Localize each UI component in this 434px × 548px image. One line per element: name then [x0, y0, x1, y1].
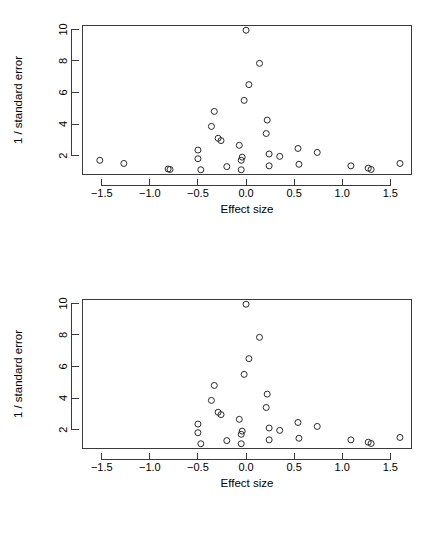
y-tick-label: 8	[57, 58, 69, 64]
y-tick-label: 10	[57, 297, 69, 309]
data-point	[241, 97, 247, 103]
y-axis-title: 1 / standard error	[12, 330, 24, 418]
data-point	[243, 27, 249, 33]
data-point	[97, 157, 103, 163]
funnel-plot-svg-bottom: 246810 −1.5−1.0−0.50.00.51.01.5 Effect s…	[0, 274, 434, 548]
x-tick-label: 1.0	[335, 461, 350, 473]
data-point	[263, 131, 269, 137]
data-point	[348, 163, 354, 169]
data-point	[264, 117, 270, 123]
x-tick-label: −1.5	[91, 461, 113, 473]
data-point	[241, 371, 247, 377]
data-point	[195, 156, 201, 162]
data-point	[195, 421, 201, 427]
x-tick-label: −1.5	[91, 187, 113, 199]
x-axis-title: Effect size	[221, 203, 274, 215]
data-point	[195, 147, 201, 153]
x-tick-label: −0.5	[187, 461, 209, 473]
data-point	[314, 149, 320, 155]
x-tick-label: 0.0	[238, 461, 253, 473]
data-point	[211, 382, 217, 388]
data-point	[208, 397, 214, 403]
y-tick-label: 2	[57, 153, 69, 159]
funnel-plot-panel-bottom: 246810 −1.5−1.0−0.50.00.51.01.5 Effect s…	[0, 274, 434, 548]
funnel-plot-svg-top: 246810 −1.5−1.0−0.50.00.51.01.5 Effect s…	[0, 0, 434, 274]
data-point	[246, 82, 252, 88]
x-axis: −1.5−1.0−0.50.00.51.01.5	[91, 453, 398, 474]
data-point	[264, 391, 270, 397]
x-axis-title: Effect size	[221, 477, 274, 489]
data-point	[266, 151, 272, 157]
y-tick-label: 2	[57, 427, 69, 433]
data-point	[198, 167, 204, 173]
data-point	[211, 108, 217, 114]
y-tick-label: 8	[57, 332, 69, 338]
y-axis: 246810	[57, 23, 79, 158]
x-tick-label: 0.5	[286, 461, 301, 473]
data-point	[295, 419, 301, 425]
x-tick-label: −0.5	[187, 187, 209, 199]
data-point	[236, 142, 242, 148]
y-tick-label: 6	[57, 363, 69, 369]
x-tick-label: 0.0	[238, 187, 253, 199]
data-point	[243, 301, 249, 307]
x-tick-label: 0.5	[286, 187, 301, 199]
y-tick-label: 4	[57, 121, 69, 127]
y-axis: 246810	[57, 297, 79, 432]
data-point	[224, 438, 230, 444]
data-point	[257, 334, 263, 340]
data-point	[296, 161, 302, 167]
x-tick-label: −1.0	[139, 461, 161, 473]
y-tick-label: 4	[57, 395, 69, 401]
data-point	[121, 160, 127, 166]
data-point	[238, 167, 244, 173]
x-tick-label: 1.5	[383, 187, 398, 199]
data-point	[246, 356, 252, 362]
data-point	[208, 123, 214, 129]
data-point	[266, 163, 272, 169]
data-point	[238, 441, 244, 447]
figure-page: 246810 −1.5−1.0−0.50.00.51.01.5 Effect s…	[0, 0, 434, 548]
data-point	[314, 423, 320, 429]
data-point	[263, 405, 269, 411]
x-tick-label: −1.0	[139, 187, 161, 199]
y-axis-title: 1 / standard error	[12, 56, 24, 144]
data-point	[236, 416, 242, 422]
x-tick-label: 1.5	[383, 461, 398, 473]
data-points	[97, 27, 403, 173]
data-point	[266, 437, 272, 443]
data-point	[195, 430, 201, 436]
data-point	[295, 145, 301, 151]
x-axis: −1.5−1.0−0.50.00.51.01.5	[91, 179, 398, 200]
x-tick-label: 1.0	[335, 187, 350, 199]
data-point	[397, 160, 403, 166]
data-point	[224, 164, 230, 170]
data-point	[266, 425, 272, 431]
data-point	[277, 427, 283, 433]
data-point	[348, 437, 354, 443]
data-point	[198, 441, 204, 447]
data-point	[296, 435, 302, 441]
data-point	[257, 60, 263, 66]
y-tick-label: 10	[57, 23, 69, 35]
y-tick-label: 6	[57, 89, 69, 95]
data-point	[397, 434, 403, 440]
data-points	[195, 301, 403, 447]
data-point	[277, 153, 283, 159]
funnel-plot-panel-top: 246810 −1.5−1.0−0.50.00.51.01.5 Effect s…	[0, 0, 434, 274]
